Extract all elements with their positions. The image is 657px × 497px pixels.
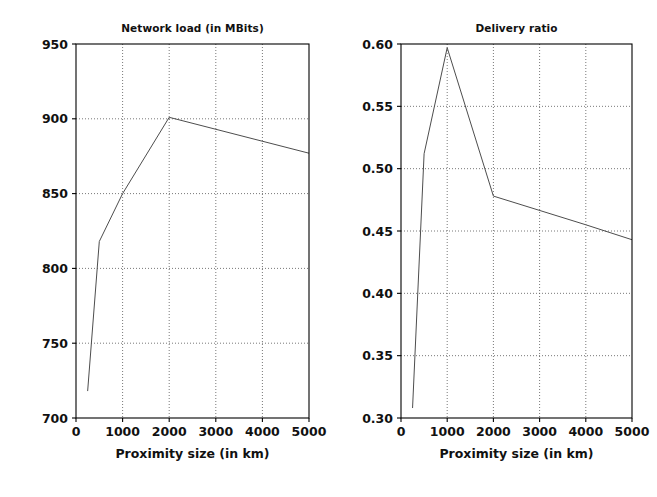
- chart-panel-network-load: Network load (in MBits) 0100020003000400…: [0, 0, 330, 497]
- y-tick-label: 850: [42, 186, 68, 201]
- y-tick-label: 0.55: [362, 99, 393, 114]
- figure-canvas: Network load (in MBits) 0100020003000400…: [0, 0, 657, 497]
- y-tick-label: 900: [42, 111, 68, 126]
- y-tick-label: 950: [42, 37, 68, 52]
- y-tick-label: 800: [42, 261, 68, 276]
- y-tick-label: 0.35: [362, 348, 393, 363]
- x-tick-label: 0: [72, 424, 81, 439]
- data-line-delivery-ratio: [413, 48, 632, 408]
- y-tick-label: 0.30: [362, 411, 393, 426]
- y-tick-label: 750: [42, 336, 68, 351]
- x-tick-label: 5000: [615, 424, 650, 439]
- x-axis-label-network-load: Proximity size (in km): [0, 446, 385, 461]
- axes-frame: [76, 44, 309, 418]
- y-tick-label: 0.50: [362, 161, 393, 176]
- x-tick-label: 3000: [198, 424, 233, 439]
- x-axis-label-delivery-ratio: Proximity size (in km): [330, 446, 657, 461]
- x-tick-label: 1000: [105, 424, 140, 439]
- x-tick-label: 3000: [522, 424, 557, 439]
- x-tick-label: 2000: [152, 424, 187, 439]
- x-tick-label: 5000: [292, 424, 327, 439]
- x-tick-label: 1000: [430, 424, 465, 439]
- plot-area-network-load: 010002000300040005000700750800850900950: [0, 0, 330, 497]
- x-tick-label: 4000: [245, 424, 280, 439]
- y-tick-label: 700: [42, 411, 68, 426]
- y-tick-label: 0.60: [362, 37, 393, 52]
- chart-panel-delivery-ratio: Delivery ratio 0100020003000400050000.30…: [330, 0, 657, 497]
- x-tick-label: 4000: [568, 424, 603, 439]
- x-tick-label: 0: [397, 424, 406, 439]
- y-tick-label: 0.45: [362, 224, 393, 239]
- y-tick-label: 0.40: [362, 286, 393, 301]
- x-tick-label: 2000: [476, 424, 511, 439]
- plot-area-delivery-ratio: 0100020003000400050000.300.350.400.450.5…: [330, 0, 657, 497]
- data-line-network-load: [88, 117, 309, 391]
